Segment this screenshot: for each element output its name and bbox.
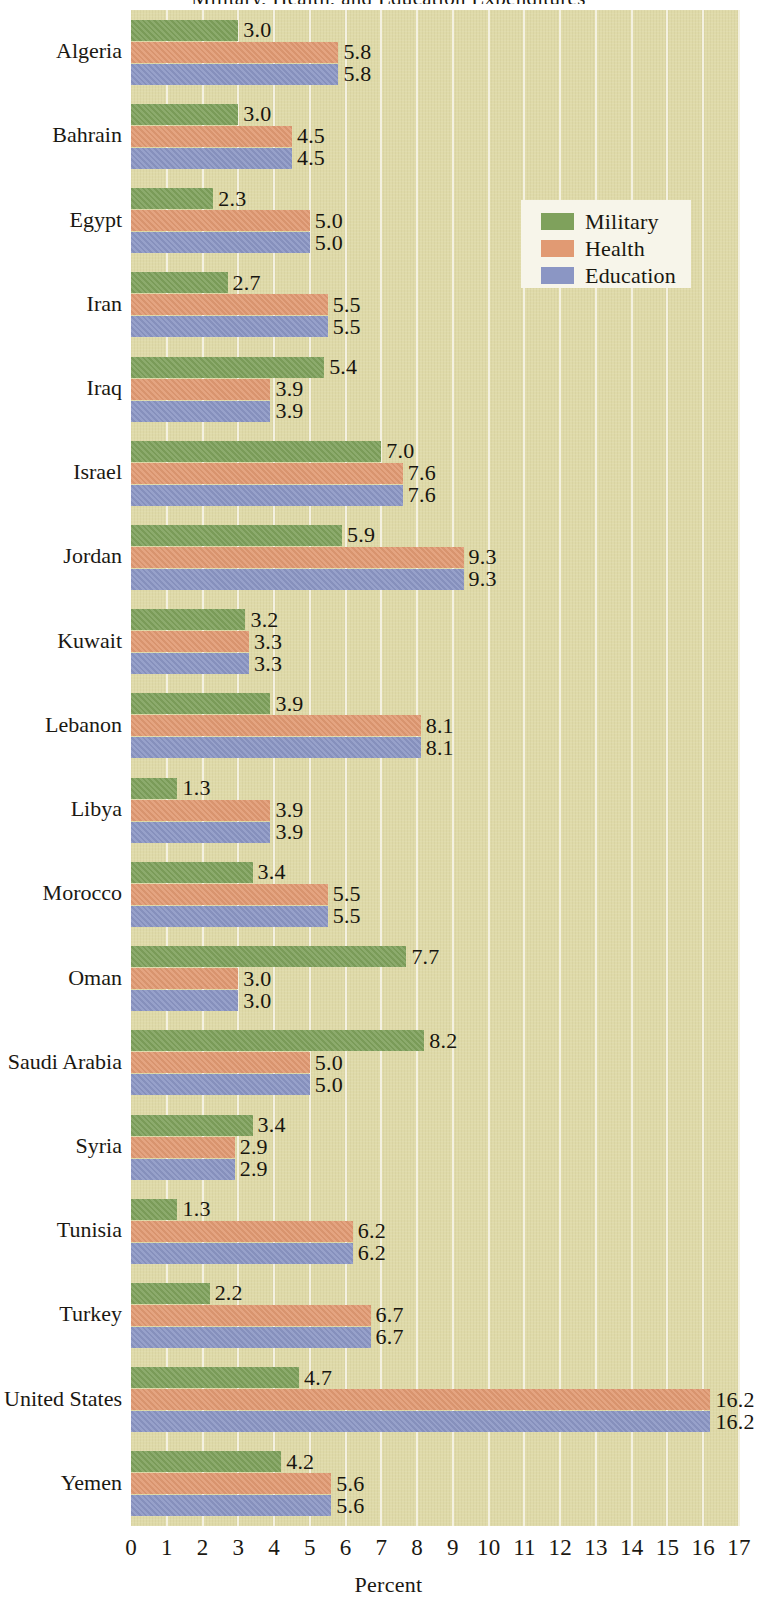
bar-value-label: 6.2 bbox=[358, 1242, 386, 1264]
bar-value-label: 6.7 bbox=[376, 1326, 404, 1348]
bar-row bbox=[131, 1451, 739, 1472]
bar-texture bbox=[131, 1283, 210, 1304]
bar-health[interactable] bbox=[131, 968, 238, 989]
bar-education[interactable] bbox=[131, 1159, 235, 1180]
bar-health[interactable] bbox=[131, 126, 292, 147]
bar-military[interactable] bbox=[131, 525, 342, 546]
bar-value-label: 4.7 bbox=[304, 1367, 332, 1389]
bar-military[interactable] bbox=[131, 272, 228, 293]
bar-value-label: 3.9 bbox=[275, 400, 303, 422]
x-tick-label: 12 bbox=[548, 1535, 571, 1561]
bar-education[interactable] bbox=[131, 1411, 710, 1432]
bar-row bbox=[131, 1495, 739, 1516]
bar-health[interactable] bbox=[131, 1221, 353, 1242]
bar-military[interactable] bbox=[131, 441, 381, 462]
bar-military[interactable] bbox=[131, 693, 270, 714]
bar-education[interactable] bbox=[131, 1074, 310, 1095]
bar-value-label: 7.6 bbox=[408, 462, 436, 484]
bar-health[interactable] bbox=[131, 547, 464, 568]
bar-military[interactable] bbox=[131, 609, 245, 630]
bar-health[interactable] bbox=[131, 1305, 371, 1326]
bar-military[interactable] bbox=[131, 1030, 424, 1051]
bar-texture bbox=[131, 946, 406, 967]
bar-row bbox=[131, 64, 739, 85]
bar-row bbox=[131, 547, 739, 568]
bar-education[interactable] bbox=[131, 485, 403, 506]
bar-health[interactable] bbox=[131, 1137, 235, 1158]
bar-military[interactable] bbox=[131, 20, 238, 41]
legend-item-health[interactable]: Health bbox=[521, 235, 691, 262]
bar-education[interactable] bbox=[131, 148, 292, 169]
bar-row bbox=[131, 1411, 739, 1432]
bar-education[interactable] bbox=[131, 822, 270, 843]
bar-military[interactable] bbox=[131, 1199, 177, 1220]
bar-military[interactable] bbox=[131, 778, 177, 799]
bar-texture bbox=[131, 1305, 371, 1326]
x-axis-title: Percent bbox=[0, 1572, 777, 1598]
bar-education[interactable] bbox=[131, 316, 328, 337]
bar-row bbox=[131, 126, 739, 147]
bar-value-label: 5.4 bbox=[329, 356, 357, 378]
bar-military[interactable] bbox=[131, 862, 253, 883]
bar-education[interactable] bbox=[131, 653, 249, 674]
bar-texture bbox=[131, 1030, 424, 1051]
bar-military[interactable] bbox=[131, 1451, 281, 1472]
category-label: Kuwait bbox=[0, 628, 122, 654]
bar-value-label: 4.5 bbox=[297, 147, 325, 169]
x-tick-label: 0 bbox=[125, 1535, 137, 1561]
x-tick-label: 7 bbox=[375, 1535, 387, 1561]
bar-military[interactable] bbox=[131, 357, 324, 378]
bar-texture bbox=[131, 104, 238, 125]
bar-military[interactable] bbox=[131, 188, 213, 209]
bar-military[interactable] bbox=[131, 946, 406, 967]
bar-row bbox=[131, 1327, 739, 1348]
bar-row bbox=[131, 631, 739, 652]
bar-texture bbox=[131, 1411, 710, 1432]
bar-military[interactable] bbox=[131, 104, 238, 125]
bar-education[interactable] bbox=[131, 64, 338, 85]
bar-value-label: 16.2 bbox=[715, 1389, 754, 1411]
category-label: Saudi Arabia bbox=[0, 1049, 122, 1075]
bar-value-label: 5.0 bbox=[315, 232, 343, 254]
bar-value-label: 5.8 bbox=[343, 41, 371, 63]
bar-texture bbox=[131, 316, 328, 337]
bar-military[interactable] bbox=[131, 1115, 253, 1136]
bar-health[interactable] bbox=[131, 210, 310, 231]
legend-item-military[interactable]: Military bbox=[521, 208, 691, 235]
bar-education[interactable] bbox=[131, 1327, 371, 1348]
bar-row bbox=[131, 42, 739, 63]
x-tick-label: 10 bbox=[477, 1535, 500, 1561]
bar-education[interactable] bbox=[131, 569, 464, 590]
bar-military[interactable] bbox=[131, 1367, 299, 1388]
bar-education[interactable] bbox=[131, 737, 421, 758]
bar-value-label: 3.3 bbox=[254, 631, 282, 653]
x-tick-label: 14 bbox=[620, 1535, 643, 1561]
category-label: Syria bbox=[0, 1133, 122, 1159]
bar-health[interactable] bbox=[131, 1389, 710, 1410]
bar-health[interactable] bbox=[131, 294, 328, 315]
legend-item-education[interactable]: Education bbox=[521, 262, 691, 289]
bar-military[interactable] bbox=[131, 1283, 210, 1304]
bar-value-label: 5.9 bbox=[347, 524, 375, 546]
bar-texture bbox=[131, 64, 338, 85]
bar-education[interactable] bbox=[131, 1495, 331, 1516]
bar-health[interactable] bbox=[131, 1052, 310, 1073]
bar-education[interactable] bbox=[131, 401, 270, 422]
bar-health[interactable] bbox=[131, 42, 338, 63]
bar-education[interactable] bbox=[131, 1243, 353, 1264]
bar-value-label: 3.9 bbox=[275, 693, 303, 715]
bar-health[interactable] bbox=[131, 463, 403, 484]
bar-health[interactable] bbox=[131, 379, 270, 400]
bar-row bbox=[131, 1115, 739, 1136]
bar-health[interactable] bbox=[131, 631, 249, 652]
bar-value-label: 2.7 bbox=[233, 272, 261, 294]
bar-education[interactable] bbox=[131, 232, 310, 253]
bar-education[interactable] bbox=[131, 906, 328, 927]
bar-health[interactable] bbox=[131, 1473, 331, 1494]
bar-education[interactable] bbox=[131, 990, 238, 1011]
bar-row bbox=[131, 525, 739, 546]
bar-health[interactable] bbox=[131, 884, 328, 905]
bar-row bbox=[131, 906, 739, 927]
bar-health[interactable] bbox=[131, 715, 421, 736]
bar-health[interactable] bbox=[131, 800, 270, 821]
